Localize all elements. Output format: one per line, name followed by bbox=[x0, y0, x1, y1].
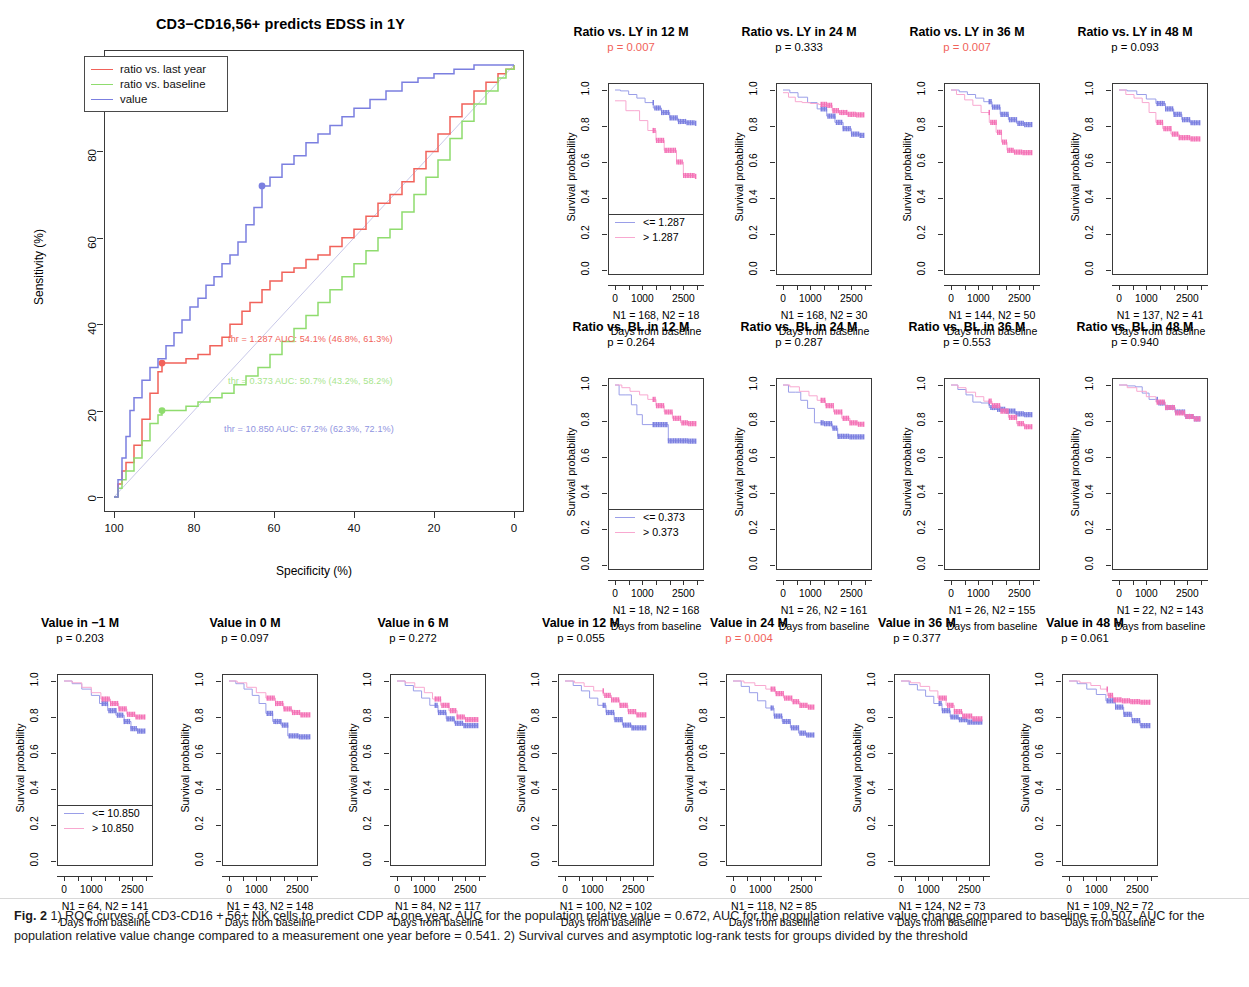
survival-y-tick-label: 1.0 bbox=[748, 76, 759, 102]
survival-y-tick-label: 0.4 bbox=[580, 479, 591, 505]
survival-y-axis-label: Survival probability bbox=[565, 397, 577, 547]
survival-y-tick-label: 0.0 bbox=[1034, 847, 1045, 873]
survival-y-tick-label: 0.8 bbox=[580, 112, 591, 138]
survival-x-tick-mark bbox=[683, 285, 684, 290]
survival-y-tick-mark bbox=[888, 753, 893, 754]
survival-legend-label: > 1.287 bbox=[643, 230, 679, 245]
survival-panel-title: Ratio vs. LY in 36 M bbox=[888, 25, 1046, 39]
survival-x-tick-label: 2500 bbox=[784, 884, 818, 895]
survival-x-tick-mark bbox=[615, 285, 616, 290]
survival-x-tick-mark bbox=[951, 285, 952, 290]
survival-x-tick-mark bbox=[620, 876, 621, 881]
survival-x-tick-mark bbox=[465, 876, 466, 881]
survival-x-tick-mark bbox=[1146, 580, 1147, 585]
survival-y-tick-mark bbox=[1106, 421, 1111, 422]
survival-x-tick-mark bbox=[810, 580, 811, 585]
survival-panel: Ratio vs. BL in 12 Mp = 0.264<= 0.373> 0… bbox=[552, 320, 710, 602]
survival-y-tick-mark bbox=[938, 493, 943, 494]
survival-y-tick-mark bbox=[938, 385, 943, 386]
survival-panel: Ratio vs. BL in 24 Mp = 0.2870.00.20.40.… bbox=[720, 320, 878, 602]
survival-y-axis-label: Survival probability bbox=[1069, 102, 1081, 252]
survival-y-tick-label: 0.2 bbox=[1084, 220, 1095, 246]
survival-x-tick-label: 2500 bbox=[1170, 588, 1204, 599]
survival-plot-area bbox=[1062, 674, 1158, 866]
survival-y-tick-mark bbox=[720, 861, 725, 862]
survival-y-tick-mark bbox=[938, 234, 943, 235]
survival-y-tick-label: 1.0 bbox=[1084, 371, 1095, 397]
survival-curves-svg bbox=[1113, 84, 1207, 274]
survival-y-tick-label: 0.0 bbox=[916, 551, 927, 577]
survival-x-tick-mark bbox=[774, 876, 775, 881]
survival-x-tick-mark bbox=[1069, 876, 1070, 881]
survival-x-tick-mark bbox=[1146, 285, 1147, 290]
survival-y-tick-mark bbox=[1056, 717, 1061, 718]
roc-threshold-marker bbox=[159, 360, 166, 367]
survival-x-tick-mark bbox=[838, 285, 839, 290]
survival-y-axis-label: Survival probability bbox=[733, 102, 745, 252]
survival-p-value: p = 0.203 bbox=[1, 632, 159, 644]
survival-x-tick-mark bbox=[1124, 876, 1125, 881]
censor-marks-high bbox=[102, 696, 144, 719]
survival-y-tick-label: 0.2 bbox=[530, 811, 541, 837]
survival-y-tick-mark bbox=[602, 270, 607, 271]
survival-y-tick-label: 0.4 bbox=[916, 184, 927, 210]
survival-x-tick-mark bbox=[629, 580, 630, 585]
survival-curve-low bbox=[64, 681, 145, 731]
survival-x-tick-mark bbox=[965, 285, 966, 290]
survival-x-tick-mark bbox=[965, 580, 966, 585]
roc-y-axis-label: Sensitivity (%) bbox=[32, 172, 46, 362]
survival-p-value: p = 0.287 bbox=[720, 336, 878, 348]
survival-y-tick-mark bbox=[1106, 162, 1111, 163]
survival-x-tick-mark bbox=[783, 285, 784, 290]
survival-x-tick-mark bbox=[824, 285, 825, 290]
survival-x-tick-mark bbox=[928, 876, 929, 881]
survival-y-tick-mark bbox=[770, 529, 775, 530]
survival-x-tick-label: 2500 bbox=[666, 293, 700, 304]
survival-y-tick-label: 0.0 bbox=[748, 256, 759, 282]
survival-y-tick-label: 0.0 bbox=[530, 847, 541, 873]
survival-curve-low bbox=[229, 681, 310, 737]
survival-legend-item: > 0.373 bbox=[609, 525, 703, 540]
survival-panel-title: Value in 0 M bbox=[166, 616, 324, 630]
roc-y-tick-mark bbox=[97, 324, 103, 325]
survival-y-tick-label: 0.6 bbox=[1084, 443, 1095, 469]
survival-p-value: p = 0.097 bbox=[166, 632, 324, 644]
survival-y-axis-label: Survival probability bbox=[851, 693, 863, 843]
figure-caption-text: 1) ROC curves of CD3-CD16 + 56+ NK cells… bbox=[14, 909, 1205, 943]
survival-p-value: p = 0.377 bbox=[838, 632, 996, 644]
survival-x-tick-mark bbox=[397, 876, 398, 881]
survival-panel: Value in 6 Mp = 0.2720.00.20.40.60.81.00… bbox=[334, 616, 492, 898]
survival-curves-svg bbox=[945, 84, 1039, 274]
survival-y-tick-label: 1.0 bbox=[748, 371, 759, 397]
survival-x-tick-mark bbox=[243, 876, 244, 881]
survival-x-tick-mark bbox=[1110, 876, 1111, 881]
survival-y-tick-mark bbox=[602, 198, 607, 199]
survival-x-tick-mark bbox=[1201, 580, 1202, 585]
survival-x-tick-label: 1000 bbox=[239, 884, 273, 895]
survival-y-tick-label: 1.0 bbox=[580, 371, 591, 397]
survival-x-tick-mark bbox=[797, 580, 798, 585]
survival-y-tick-mark bbox=[770, 385, 775, 386]
survival-curve-high bbox=[615, 385, 696, 424]
censor-marks-high bbox=[1157, 400, 1199, 422]
survival-y-tick-mark bbox=[938, 90, 943, 91]
survival-y-tick-label: 0.0 bbox=[29, 847, 40, 873]
roc-x-tick-mark bbox=[354, 512, 355, 518]
survival-y-tick-mark bbox=[384, 825, 389, 826]
survival-legend: <= 10.850> 10.850 bbox=[58, 805, 152, 845]
survival-x-tick-mark bbox=[438, 876, 439, 881]
survival-x-tick-mark bbox=[270, 876, 271, 881]
survival-panel: Value in −1 Mp = 0.203<= 10.850> 10.8500… bbox=[1, 616, 159, 898]
survival-y-tick-mark bbox=[602, 90, 607, 91]
survival-y-tick-mark bbox=[1106, 90, 1111, 91]
roc-legend-swatch-blue bbox=[91, 99, 113, 100]
roc-legend-item: ratio vs. last year bbox=[91, 62, 221, 77]
roc-y-tick-label: 60 bbox=[86, 236, 98, 270]
censor-marks-high bbox=[267, 696, 309, 718]
roc-x-tick-label: 80 bbox=[174, 522, 214, 534]
roc-legend-label: ratio vs. baseline bbox=[120, 77, 205, 92]
survival-x-tick-mark bbox=[760, 876, 761, 881]
survival-y-axis-label: Survival probability bbox=[179, 693, 191, 843]
survival-group-sizes: N1 = 26, N2 = 155 bbox=[922, 604, 1062, 616]
roc-annotation-3: thr = 10.850 AUC: 67.2% (62.3%, 72.1%) bbox=[224, 424, 394, 434]
